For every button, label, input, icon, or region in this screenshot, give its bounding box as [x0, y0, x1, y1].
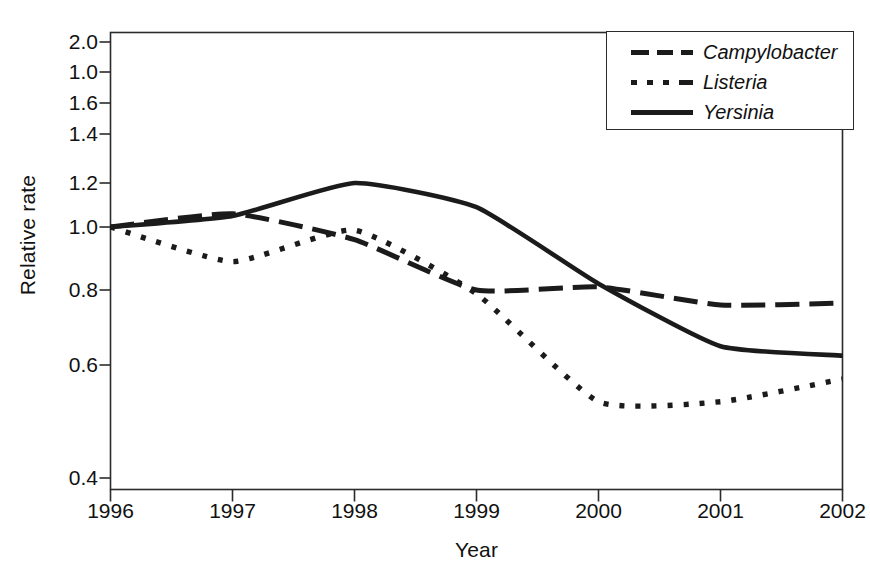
x-tick-label: 1997 [178, 500, 288, 521]
chart-figure: 2.01.01.61.41.21.00.80.60.4 199619971998… [0, 0, 870, 581]
legend-swatch-solid-icon [631, 110, 693, 115]
legend-swatch-dotted-icon [631, 80, 693, 85]
x-tick-label: 1996 [56, 500, 166, 521]
x-axis-title: Year [110, 538, 843, 562]
y-axis-title: Relative rate [16, 145, 40, 325]
x-tick-label: 2001 [666, 500, 776, 521]
legend-label-campylobacter: Campylobacter [703, 40, 838, 64]
legend-label-listeria: Listeria [703, 70, 767, 94]
x-tick-label: 1999 [422, 500, 532, 521]
x-tick-label: 2002 [788, 500, 870, 521]
legend-item-yersinia: Yersinia [607, 98, 855, 126]
legend-item-campylobacter: Campylobacter [607, 38, 855, 66]
legend-box: Campylobacter Listeria Yersinia [606, 31, 854, 130]
legend-item-listeria: Listeria [607, 68, 855, 96]
legend-label-yersinia: Yersinia [703, 100, 774, 124]
x-tick-label: 1998 [300, 500, 410, 521]
legend-swatch-dashed-icon [631, 50, 693, 55]
x-tick-label: 2000 [544, 500, 654, 521]
